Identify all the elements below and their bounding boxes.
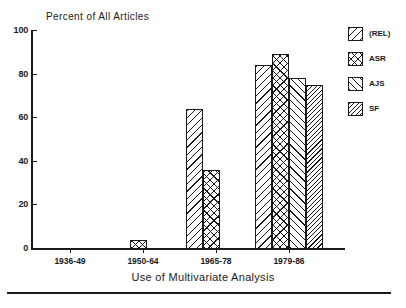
bar-1965-78-asr bbox=[203, 170, 220, 249]
legend-item-rel: (REL) bbox=[348, 27, 406, 52]
legend-swatch-asr-icon bbox=[348, 52, 363, 66]
bar-1950-64-asr bbox=[130, 240, 147, 249]
legend-label-ajs: AJS bbox=[369, 79, 385, 88]
bar-1979-86-rel bbox=[255, 65, 272, 249]
x-axis-title: Use of Multivariate Analysis bbox=[0, 271, 406, 283]
y-tick-label-80: 80 bbox=[4, 70, 28, 79]
y-tick-label-40: 40 bbox=[4, 157, 28, 166]
figure-container: Percent of All Articles 100 80 60 40 20 … bbox=[0, 0, 406, 308]
x-tick-label-1965-78: 1965-78 bbox=[185, 256, 247, 266]
y-tick-label-100: 100 bbox=[4, 26, 28, 35]
legend-item-sf: SF bbox=[348, 102, 406, 127]
bar-1979-86-sf bbox=[306, 85, 323, 249]
legend-swatch-rel-icon bbox=[348, 27, 363, 41]
bar-1979-86-asr bbox=[272, 54, 289, 249]
legend-item-ajs: AJS bbox=[348, 77, 406, 102]
bar-1979-86-ajs bbox=[289, 78, 306, 249]
figure-caption bbox=[7, 297, 397, 308]
legend-swatch-ajs-icon bbox=[348, 77, 363, 91]
x-tick-label-1979-86: 1979-86 bbox=[258, 256, 320, 266]
legend-label-asr: ASR bbox=[369, 54, 386, 63]
y-tick-label-20: 20 bbox=[4, 200, 28, 209]
y-tick-label-0: 0 bbox=[4, 244, 28, 253]
caption-divider bbox=[7, 292, 391, 294]
x-tick-label-1950-64: 1950-64 bbox=[112, 256, 174, 266]
legend-label-rel: (REL) bbox=[369, 29, 390, 38]
bar-1965-78-rel bbox=[186, 109, 203, 249]
legend: (REL) ASR AJS SF bbox=[348, 27, 406, 127]
y-tick-label-60: 60 bbox=[4, 113, 28, 122]
chart-title: Percent of All Articles bbox=[46, 11, 149, 22]
x-tick-label-1936-49: 1936-49 bbox=[39, 256, 101, 266]
legend-label-sf: SF bbox=[369, 104, 379, 113]
bars-layer bbox=[31, 30, 345, 249]
legend-item-asr: ASR bbox=[348, 52, 406, 77]
legend-swatch-sf-icon bbox=[348, 102, 363, 116]
